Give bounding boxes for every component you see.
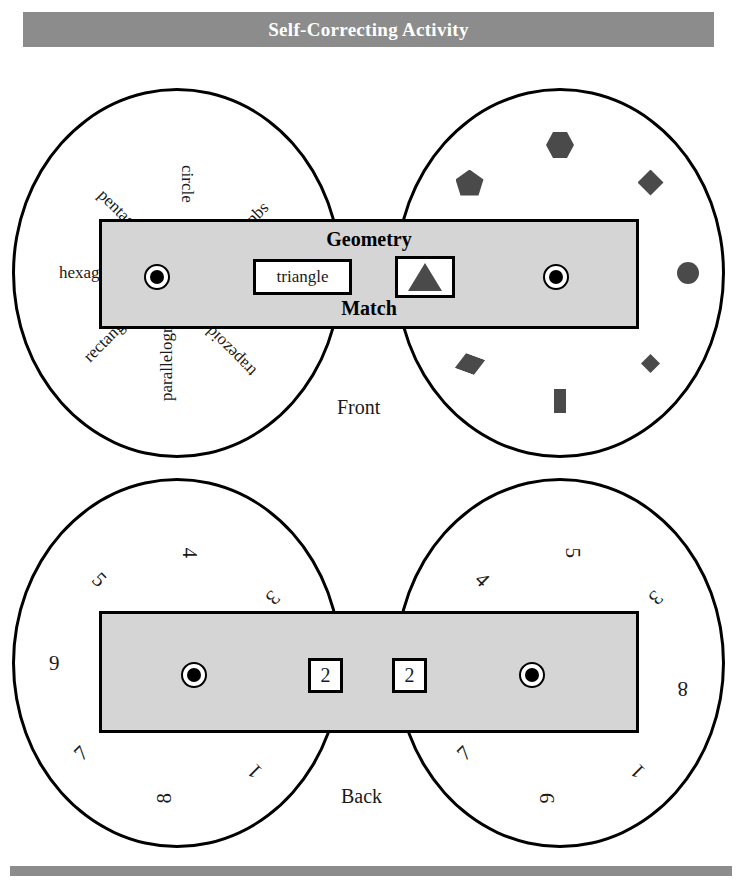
wheel-label: 5	[86, 567, 111, 592]
small-diamond-icon	[641, 354, 660, 373]
back-right-rivet-icon[interactable]	[519, 662, 545, 688]
hexagon-icon	[546, 132, 574, 158]
back-left-number-window: 2	[308, 658, 343, 693]
diamond-icon	[638, 170, 664, 196]
front-right-rivet-icon[interactable]	[543, 264, 569, 290]
wheel-label: 4	[177, 548, 202, 559]
front-word-window: triangle	[253, 259, 352, 295]
wheel-label: 7	[452, 741, 477, 766]
front-face-label: Front	[337, 396, 380, 419]
wheel-label: 8	[152, 793, 177, 804]
back-left-rivet-icon[interactable]	[181, 662, 207, 688]
pentagon-icon	[456, 170, 484, 196]
wheel-label: 4	[469, 567, 494, 592]
front-left-rivet-icon[interactable]	[144, 264, 170, 290]
wheel-label: 1	[242, 759, 267, 784]
wheel-label: trapezoid	[202, 322, 261, 381]
back-center-strip: 2 2	[99, 611, 639, 733]
wheel-label: 9	[49, 651, 60, 676]
wheel-label: 3	[260, 585, 285, 610]
front-center-strip: Geometry triangle Match	[99, 219, 639, 329]
rectangle-icon	[554, 389, 566, 413]
back-right-number-window: 2	[392, 658, 427, 693]
page-title: Self-Correcting Activity	[268, 19, 468, 41]
header-bar: Self-Correcting Activity	[23, 12, 714, 47]
footer-bar	[10, 866, 732, 876]
wheel-label: 7	[69, 741, 94, 766]
wheel-label: circle	[177, 165, 197, 203]
back-right-number-value: 2	[405, 664, 415, 687]
wheel-label: 9	[535, 793, 560, 804]
activity-sheet: Self-Correcting Activity circlesquaretra…	[0, 0, 737, 887]
wheel-label: 1	[625, 759, 650, 784]
parallelogram-icon	[454, 351, 485, 377]
strip-subtitle: Match	[102, 297, 636, 320]
circle-icon	[677, 262, 699, 284]
back-left-number-value: 2	[321, 664, 331, 687]
strip-title: Geometry	[102, 228, 636, 251]
back-face-label: Back	[341, 785, 382, 808]
wheel-label: 8	[678, 676, 689, 701]
front-shape-window	[395, 256, 455, 298]
wheel-label: 3	[643, 585, 668, 610]
wheel-label: 5	[560, 548, 585, 559]
front-word-window-value: triangle	[277, 267, 329, 287]
triangle-icon	[408, 263, 442, 291]
